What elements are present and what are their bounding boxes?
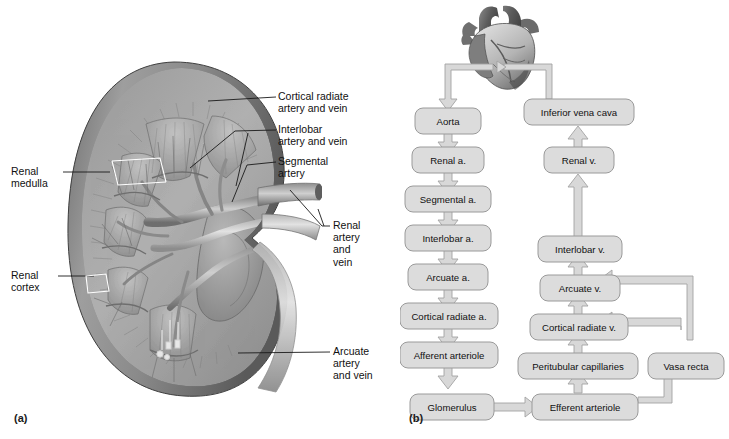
node-label: Cortical radiate v.	[542, 322, 616, 333]
node-label: Vasa recta	[663, 361, 709, 372]
node-renal-v[interactable]: Renal v.	[544, 147, 614, 173]
node-segmental-a[interactable]: Segmental a.	[405, 186, 491, 212]
node-aorta[interactable]: Aorta	[415, 108, 481, 134]
node-label: Aorta	[437, 116, 461, 127]
node-arcuate-v[interactable]: Arcuate v.	[540, 275, 620, 301]
callout-line: vein	[333, 256, 399, 268]
callout-arcuate: Arcuate artery and vein	[333, 345, 399, 382]
arrow-afferent-to-glomerulus	[438, 367, 458, 389]
node-label: Arcuate v.	[559, 283, 601, 294]
panel-a-letter: (a)	[14, 412, 27, 424]
node-label: Inferior vena cava	[541, 107, 618, 118]
node-label: Interlobar v.	[555, 244, 605, 255]
callout-line: artery	[333, 357, 399, 369]
node-label: Segmental a.	[420, 194, 477, 205]
callout-line: Cortical radiate	[278, 90, 396, 102]
node-arcuate-a[interactable]: Arcuate a.	[408, 264, 488, 290]
arrow-interlobar-v-to-renal-v	[568, 174, 588, 237]
node-label: Interlobar a.	[422, 233, 473, 244]
renal-blood-flow-diagram: Aorta Renal a. Segmental a. Interlobar a…	[400, 0, 729, 439]
callout-line: Renal	[333, 219, 399, 231]
callout-line: Interlobar	[278, 123, 396, 135]
arrow-ivc-to-heart-head	[497, 61, 506, 73]
callout-cortical-radiate: Cortical radiate artery and vein	[278, 90, 396, 114]
callout-line: Renal	[11, 269, 69, 281]
node-label: Renal v.	[562, 155, 596, 166]
callout-interlobar: Interlobar artery and vein	[278, 123, 396, 147]
callout-renal-medulla: Renal medulla	[11, 165, 69, 189]
node-label: Glomerulus	[427, 402, 476, 413]
callout-line: artery	[278, 167, 388, 179]
node-cortical-radiate-v[interactable]: Cortical radiate v.	[530, 314, 628, 340]
callout-line: artery	[333, 231, 399, 243]
node-peritubular-capillaries[interactable]: Peritubular capillaries	[518, 353, 638, 379]
callout-line: artery and vein	[278, 102, 396, 114]
arrow-glomerulus-to-efferent	[492, 397, 538, 417]
callout-segmental-artery: Segmental artery	[278, 155, 388, 179]
panel-a-kidney-illustration: Cortical radiate artery and vein Interlo…	[0, 0, 400, 439]
node-renal-a[interactable]: Renal a.	[412, 147, 484, 173]
callout-line: and	[333, 243, 399, 255]
node-label: Arcuate a.	[426, 272, 470, 283]
callout-renal-cortex: Renal cortex	[11, 269, 69, 293]
callout-line: cortex	[11, 281, 69, 293]
node-label: Afferent arteriole	[414, 350, 485, 361]
callout-renal-artery-vein: Renal artery and vein	[333, 219, 399, 268]
node-label: Renal a.	[430, 155, 466, 166]
callout-line: and vein	[333, 369, 399, 381]
panel-b-blood-flow-chart: Aorta Renal a. Segmental a. Interlobar a…	[400, 0, 729, 439]
callout-line: Segmental	[278, 155, 388, 167]
arrow-heart-to-aorta	[439, 64, 493, 111]
node-vasa-recta[interactable]: Vasa recta	[648, 353, 724, 379]
arrow-renal-v-to-ivc	[568, 126, 588, 148]
node-label: Peritubular capillaries	[532, 361, 624, 372]
node-efferent-arteriole[interactable]: Efferent arteriole	[532, 394, 638, 420]
panel-b-letter: (b)	[409, 412, 423, 424]
node-cortical-radiate-a[interactable]: Cortical radiate a.	[400, 303, 498, 329]
kidney-cut-surface	[82, 68, 277, 386]
node-interlobar-v[interactable]: Interlobar v.	[538, 236, 622, 262]
callout-line: medulla	[11, 177, 69, 189]
node-label: Cortical radiate a.	[411, 311, 486, 322]
node-interlobar-a[interactable]: Interlobar a.	[405, 225, 491, 251]
node-label: Efferent arteriole	[550, 402, 621, 413]
node-inferior-vena-cava[interactable]: Inferior vena cava	[524, 99, 634, 125]
callout-line: artery and vein	[278, 135, 396, 147]
node-afferent-arteriole[interactable]: Afferent arteriole	[400, 342, 498, 368]
arrow-ivc-to-heart-stem	[504, 64, 552, 99]
callout-line: Arcuate	[333, 345, 399, 357]
callout-line: Renal	[11, 165, 69, 177]
